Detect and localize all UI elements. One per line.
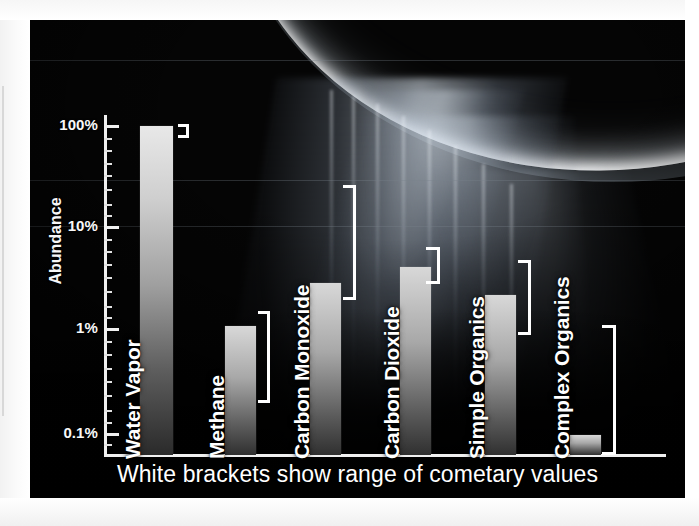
page-margin-top [0,0,699,20]
bracket-carbon-dioxide [426,247,440,284]
y-tick-minor [104,410,112,412]
page-margin-left [0,0,30,526]
bar-label-carbon-dioxide: Carbon Dioxide [380,307,404,459]
bracket-simple-organics [518,260,531,335]
y-tick-minor [104,422,112,424]
bracket-complex-organics [602,325,616,455]
bar-simple-organics [485,295,516,455]
page-margin-bottom [0,498,699,526]
y-tick-minor [104,444,112,446]
y-tick-minor [104,368,112,370]
y-tick-minor [104,341,112,343]
bar-label-carbon-monoxide: Carbon Monoxide [290,285,314,459]
bar-label-methane: Methane [205,375,229,459]
bar-complex-organics [570,435,601,455]
y-tick-minor [104,381,112,383]
bracket-water-vapor [178,124,189,138]
page-rule-line [2,86,4,416]
y-tick-minor [104,317,112,319]
y-axis-title: Abundance [47,171,65,311]
y-tick-label-text: 1% [76,319,98,336]
y-tick-minor [104,215,112,217]
y-tick-major-10 [104,226,119,229]
y-tick-label-text: 10% [68,217,98,234]
y-tick-minor [104,251,112,253]
y-tick-minor [104,291,112,293]
y-tick-label-text: 0.1% [63,424,98,441]
y-tick-label-text: 100% [59,116,98,133]
bar-methane [225,326,256,455]
y-tick-major-0-1 [104,433,119,436]
y-tick-minor [104,204,112,206]
bar-label-water-vapor: Water Vapor [121,339,145,459]
y-axis-line [104,115,107,455]
y-tick-minor [104,354,112,356]
bracket-methane [258,311,270,403]
page-margin-right [685,0,699,526]
bar-label-simple-organics: Simple Organics [465,296,489,459]
bar-carbon-monoxide [310,283,341,455]
y-tick-major-1 [104,328,119,331]
y-tick-minor [104,163,112,165]
figure-caption: White brackets show range of cometary va… [30,461,685,488]
bracket-carbon-monoxide [343,185,356,300]
y-tick-minor [104,150,112,152]
bar-carbon-dioxide [400,267,431,455]
y-tick-major-100 [104,125,119,128]
y-tick-minor [104,306,112,308]
figure-panel: 100% 10% 1% 0.1% Abundance Water Vapor M… [30,20,685,498]
y-tick-minor [104,239,112,241]
y-tick-minor [104,175,112,177]
y-tick-minor [104,189,112,191]
bar-label-complex-organics: Complex Organics [550,277,574,459]
y-tick-minor [104,277,112,279]
y-tick-minor [104,264,112,266]
y-tick-minor [104,395,112,397]
y-tick-minor [104,138,112,140]
scanned-page: 100% 10% 1% 0.1% Abundance Water Vapor M… [0,0,699,526]
